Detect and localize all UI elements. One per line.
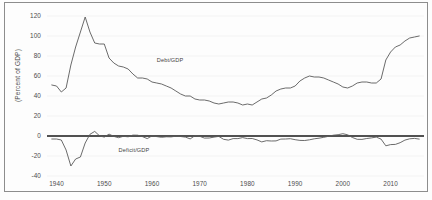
- y-tick-label: 60: [15, 72, 41, 79]
- y-tick-label: 40: [15, 92, 41, 99]
- series-label-deficit: Deficit/GDP: [119, 147, 150, 153]
- x-tick-label: 1950: [84, 180, 124, 187]
- y-tick-label: 80: [15, 52, 41, 59]
- y-tick-label: 100: [15, 32, 41, 39]
- data-series-lines: [52, 17, 419, 166]
- x-tick-label: 1940: [37, 180, 77, 187]
- gridlines: [47, 16, 424, 176]
- x-tick-label: 2000: [323, 180, 363, 187]
- x-tick-label: 1970: [180, 180, 220, 187]
- chart-plot-area: [0, 0, 432, 200]
- series-line-debt-gdp: [52, 17, 419, 105]
- x-tick-label: 1980: [227, 180, 267, 187]
- y-tick-label: 0: [15, 132, 41, 139]
- x-tick-label: 1960: [132, 180, 172, 187]
- y-tick-label: -20: [15, 152, 41, 159]
- chart-figure: (Percent of GDP) -40-20020406080100120 1…: [0, 0, 432, 200]
- x-tick-label: 1990: [275, 180, 315, 187]
- y-tick-label: 20: [15, 112, 41, 119]
- y-tick-label: 120: [15, 12, 41, 19]
- x-tick-label: 2010: [371, 180, 411, 187]
- y-tick-label: -40: [15, 172, 41, 179]
- series-label-debt: Debt/GDP: [157, 57, 184, 63]
